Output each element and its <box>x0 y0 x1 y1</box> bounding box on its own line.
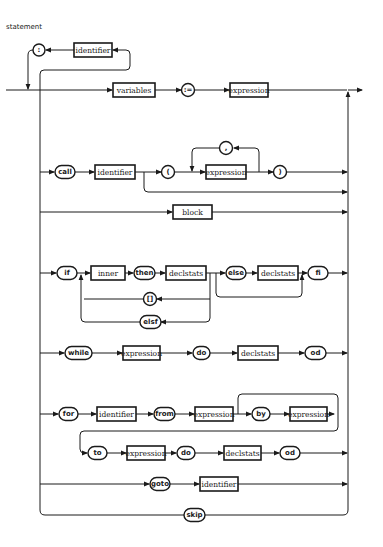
svg-text:expression: expression <box>206 168 247 177</box>
svg-text:od: od <box>285 449 295 457</box>
svg-text:expression: expression <box>229 86 270 95</box>
svg-text:call: call <box>58 168 72 176</box>
row-call: call identifier ( expression ) , <box>40 142 347 193</box>
svg-text:declstats: declstats <box>169 269 203 278</box>
svg-text:by: by <box>256 410 266 418</box>
svg-text:): ) <box>278 168 281 176</box>
svg-text:from: from <box>155 410 174 418</box>
svg-text:expression: expression <box>288 410 329 419</box>
svg-text:then: then <box>135 269 153 277</box>
svg-text:else: else <box>228 269 244 277</box>
svg-text:goto: goto <box>151 480 169 488</box>
syntax-diagram: statement identifier : variables := expr… <box>0 0 383 547</box>
svg-text:identifier: identifier <box>202 480 237 489</box>
row-while: while expression do declstats od <box>40 346 347 360</box>
diagram-title: statement <box>6 23 42 31</box>
svg-text:identifier: identifier <box>98 168 133 177</box>
svg-text:[]: [] <box>147 295 153 303</box>
svg-text:if: if <box>64 269 70 277</box>
svg-text:,: , <box>225 144 228 152</box>
svg-text:identifier: identifier <box>99 410 134 419</box>
svg-text:declstats: declstats <box>241 349 275 358</box>
svg-text::: : <box>38 46 41 54</box>
svg-text:declstats: declstats <box>225 449 259 458</box>
svg-text:block: block <box>182 208 203 217</box>
row-skip: skip <box>184 509 205 522</box>
row-block: block <box>40 205 347 219</box>
svg-text:do: do <box>197 349 207 357</box>
svg-text:identifier: identifier <box>76 46 111 55</box>
svg-text:fi: fi <box>315 269 320 277</box>
svg-text::=: := <box>184 86 193 94</box>
svg-text:skip: skip <box>186 511 202 519</box>
row-for: for identifier from expression by expres… <box>40 394 347 460</box>
svg-text:expression: expression <box>126 449 167 458</box>
svg-text:do: do <box>181 449 191 457</box>
svg-text:od: od <box>311 349 321 357</box>
svg-text:to: to <box>93 449 101 457</box>
svg-text:(: ( <box>166 168 169 176</box>
svg-text:for: for <box>63 410 75 418</box>
row-if: if inner then declstats else declstats f… <box>40 266 347 329</box>
row-goto: goto identifier <box>40 477 347 491</box>
svg-text:inner: inner <box>98 269 118 278</box>
row-assignment: variables := expression <box>113 83 347 97</box>
svg-text:variables: variables <box>116 86 152 95</box>
svg-text:expression: expression <box>194 410 235 419</box>
svg-text:declstats: declstats <box>261 269 295 278</box>
svg-text:expression: expression <box>121 349 162 358</box>
svg-text:while: while <box>68 349 89 357</box>
svg-text:elsf: elsf <box>143 318 158 326</box>
